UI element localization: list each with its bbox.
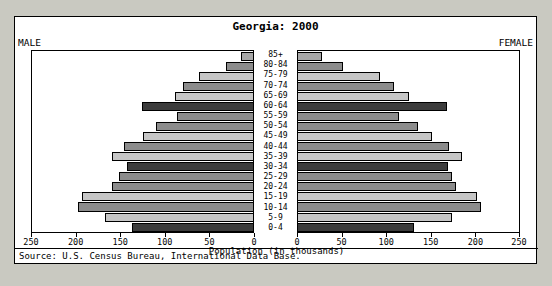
age-group-label: 0-4	[254, 223, 297, 233]
male-bar-row	[32, 152, 253, 162]
female-bar	[298, 223, 414, 232]
source-note: Source: U.S. Census Bureau, Internationa…	[15, 248, 538, 263]
male-bar	[105, 213, 254, 222]
age-group-label: 85+	[254, 50, 297, 60]
age-group-label: 30-34	[254, 162, 297, 172]
female-bar	[298, 192, 477, 201]
male-bar	[177, 112, 253, 121]
male-bar	[183, 82, 253, 91]
male-bar	[143, 132, 253, 141]
female-bar	[298, 112, 399, 121]
female-bar-row	[298, 91, 519, 101]
male-bar-row	[32, 121, 253, 131]
female-plot-frame	[297, 50, 520, 233]
male-bar-row	[32, 222, 253, 232]
male-bar	[127, 162, 253, 171]
female-bar-row	[298, 111, 519, 121]
male-bar	[112, 182, 253, 191]
age-group-label: 50-54	[254, 121, 297, 131]
female-bar-row	[298, 142, 519, 152]
male-bar	[226, 62, 253, 71]
female-bar	[298, 202, 481, 211]
male-bar-row	[32, 132, 253, 142]
female-bar-rows	[298, 51, 519, 232]
population-pyramid-screenshot: Georgia: 2000 MALE FEMALE 85+80-8475-797…	[0, 0, 552, 286]
female-bar	[298, 102, 447, 111]
age-group-label: 55-59	[254, 111, 297, 121]
female-bar-row	[298, 51, 519, 61]
female-bar-row	[298, 61, 519, 71]
female-bar	[298, 92, 409, 101]
male-bar-row	[32, 61, 253, 71]
male-bar-row	[32, 81, 253, 91]
male-bar	[112, 152, 253, 161]
male-bar	[175, 92, 253, 101]
male-bar-row	[32, 172, 253, 182]
female-bar	[298, 182, 456, 191]
female-bar	[298, 132, 432, 141]
female-bar	[298, 82, 394, 91]
male-bar-row	[32, 142, 253, 152]
female-bar-row	[298, 81, 519, 91]
female-bar	[298, 122, 418, 131]
female-bar	[298, 213, 452, 222]
male-side-label: MALE	[18, 37, 41, 48]
male-bar	[82, 192, 253, 201]
male-bar-row	[32, 202, 253, 212]
female-bar-row	[298, 212, 519, 222]
female-side-label: FEMALE	[499, 37, 533, 48]
chart-title: Georgia: 2000	[15, 20, 536, 33]
chart-panel: Georgia: 2000 MALE FEMALE 85+80-8475-797…	[14, 16, 537, 264]
female-bar-row	[298, 172, 519, 182]
age-group-label: 65-69	[254, 91, 297, 101]
male-bar-row	[32, 182, 253, 192]
female-bar-row	[298, 162, 519, 172]
age-group-label: 60-64	[254, 101, 297, 111]
female-bar-row	[298, 182, 519, 192]
female-bar-row	[298, 222, 519, 232]
age-group-label: 10-14	[254, 203, 297, 213]
male-bar-row	[32, 212, 253, 222]
male-bar-row	[32, 51, 253, 61]
male-bar	[78, 202, 253, 211]
male-bar-row	[32, 162, 253, 172]
age-group-axis: 85+80-8475-7970-7465-6960-6455-5950-5445…	[254, 50, 297, 233]
female-bar-row	[298, 132, 519, 142]
male-bar	[199, 72, 253, 81]
age-group-label: 15-19	[254, 192, 297, 202]
age-group-label: 80-84	[254, 60, 297, 70]
male-bar	[124, 142, 253, 151]
male-plot-frame	[31, 50, 254, 233]
age-group-label: 25-29	[254, 172, 297, 182]
female-bar	[298, 142, 449, 151]
female-bar-row	[298, 202, 519, 212]
female-bar	[298, 72, 380, 81]
male-bar-row	[32, 101, 253, 111]
female-bar	[298, 152, 462, 161]
male-bar-row	[32, 71, 253, 81]
male-bar	[142, 102, 253, 111]
male-bar	[119, 172, 253, 181]
male-bar-row	[32, 192, 253, 202]
plot-area: 85+80-8475-7970-7465-6960-6455-5950-5445…	[31, 50, 520, 233]
female-bar-row	[298, 192, 519, 202]
female-bar	[298, 62, 343, 71]
age-group-label: 20-24	[254, 182, 297, 192]
female-bar-row	[298, 101, 519, 111]
age-group-label: 45-49	[254, 131, 297, 141]
male-bar	[156, 122, 253, 131]
male-bar	[241, 52, 253, 61]
female-bar	[298, 172, 452, 181]
female-bar-row	[298, 121, 519, 131]
male-bar	[132, 223, 253, 232]
male-bar-row	[32, 91, 253, 101]
age-group-label: 35-39	[254, 152, 297, 162]
female-bar-row	[298, 71, 519, 81]
age-group-label: 70-74	[254, 81, 297, 91]
age-group-label: 5-9	[254, 213, 297, 223]
male-bar-row	[32, 111, 253, 121]
female-bar-row	[298, 152, 519, 162]
female-bar	[298, 52, 322, 61]
age-group-label: 75-79	[254, 70, 297, 80]
male-bar-rows	[32, 51, 253, 232]
